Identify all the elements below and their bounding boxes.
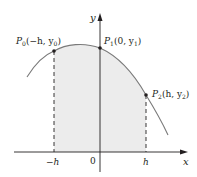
point-label-p0: P0(−h, y0) [15,36,61,47]
point-p0 [52,49,56,53]
origin-label: 0 [90,156,96,166]
simpson-rule-diagram: y x 0 −h h P0(−h, y0) P1(0, y1) P2(h, y2… [0,0,197,177]
x-axis-arrow-icon [180,150,188,155]
point-p1 [98,46,102,50]
y-axis-arrow-icon [98,13,103,21]
point-label-p1: P1(0, y1) [103,36,141,47]
x-axis-label: x [183,156,189,167]
point-p2 [144,93,148,97]
y-axis-label: y [89,12,96,23]
point-label-p2: P2(h, y2) [151,89,189,100]
tick-label-h: h [143,157,149,167]
tick-label-minus-h: −h [46,157,59,167]
